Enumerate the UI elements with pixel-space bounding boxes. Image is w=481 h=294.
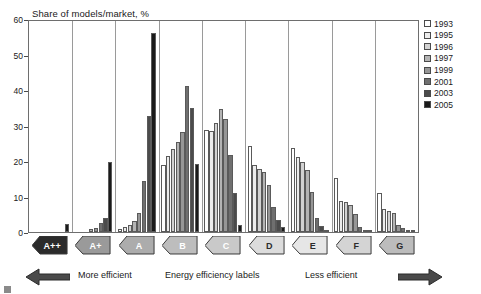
- energy-label-b[interactable]: B: [162, 236, 198, 255]
- legend-swatch: [424, 43, 431, 50]
- bar: [180, 132, 184, 232]
- bar: [209, 131, 213, 232]
- legend-swatch: [424, 55, 431, 62]
- bar: [89, 229, 93, 232]
- bar: [108, 162, 112, 232]
- y-axis-tick-label: 10: [14, 193, 23, 203]
- bar-group: [29, 21, 72, 232]
- bar: [252, 165, 256, 232]
- corner-marker: [4, 286, 11, 293]
- bar: [310, 192, 314, 232]
- bar: [339, 201, 343, 232]
- bar: [166, 156, 170, 232]
- energy-label-g[interactable]: G: [379, 236, 415, 255]
- energy-label-c[interactable]: C: [205, 236, 241, 255]
- bar: [228, 155, 232, 232]
- legend-item[interactable]: 1997: [424, 53, 478, 65]
- bar: [353, 214, 357, 232]
- bar: [132, 221, 136, 232]
- bar: [411, 230, 415, 232]
- bar: [267, 185, 271, 232]
- bar: [324, 230, 328, 232]
- y-axis-tick-label: 50: [14, 51, 23, 61]
- bar: [128, 225, 132, 232]
- legend-label: 1999: [434, 66, 453, 75]
- energy-label-text: B: [179, 241, 186, 251]
- bar: [248, 146, 252, 232]
- bar: [315, 218, 319, 232]
- y-axis-tick-label: 20: [14, 157, 23, 167]
- legend-item[interactable]: 2001: [424, 76, 478, 88]
- bar-group: [202, 21, 245, 232]
- legend-item[interactable]: 1995: [424, 30, 478, 42]
- bar-group: [115, 21, 158, 232]
- bar: [367, 230, 371, 232]
- chart-footer: More efficient Energy efficiency labels …: [0, 262, 481, 292]
- y-axis-tick-label: 30: [14, 122, 23, 132]
- legend-swatch: [424, 101, 431, 108]
- legend: 19931995199619971999200120032005: [424, 18, 478, 111]
- bar: [406, 230, 410, 232]
- energy-label-strip: A++A+ABCDEFG: [28, 236, 419, 258]
- legend-item[interactable]: 2005: [424, 99, 478, 111]
- legend-item[interactable]: 1999: [424, 64, 478, 76]
- bar-group: [332, 21, 375, 232]
- energy-label-aplus[interactable]: A+: [75, 236, 111, 255]
- chart-title: Share of models/market, %: [32, 8, 149, 19]
- legend-label: 2005: [434, 101, 453, 110]
- legend-item[interactable]: 1993: [424, 18, 478, 30]
- bar: [257, 169, 261, 232]
- bar: [271, 207, 275, 232]
- bar-group: [288, 21, 331, 232]
- bar: [151, 33, 155, 232]
- legend-swatch: [424, 67, 431, 74]
- legend-label: 2001: [434, 78, 453, 87]
- legend-item[interactable]: 1996: [424, 41, 478, 53]
- arrow-left-icon: [26, 268, 70, 286]
- y-axis-tick-label: 60: [14, 15, 23, 25]
- bar: [137, 213, 141, 232]
- energy-label-e[interactable]: E: [292, 236, 328, 255]
- energy-label-aplusplus[interactable]: A++: [32, 236, 68, 255]
- energy-label-a[interactable]: A: [119, 236, 155, 255]
- axis-center-label: Energy efficiency labels: [165, 270, 259, 280]
- bar: [204, 130, 208, 232]
- energy-label-text: A++: [43, 241, 61, 251]
- energy-label-text: D: [266, 241, 273, 251]
- bar: [281, 227, 285, 232]
- bar: [195, 164, 199, 232]
- bar: [392, 213, 396, 232]
- more-efficient-label: More efficient: [78, 270, 132, 280]
- legend-label: 1996: [434, 43, 453, 52]
- energy-label-text: G: [396, 241, 403, 251]
- energy-label-text: E: [310, 241, 316, 251]
- energy-label-text: A+: [90, 241, 102, 251]
- bar: [296, 157, 300, 232]
- legend-label: 1995: [434, 31, 453, 40]
- energy-label-d[interactable]: D: [249, 236, 285, 255]
- bar-group: [159, 21, 202, 232]
- bar: [291, 148, 295, 232]
- bar: [214, 123, 218, 232]
- arrow-right-icon: [398, 268, 442, 286]
- energy-label-f[interactable]: F: [336, 236, 372, 255]
- energy-label-text: A: [136, 241, 143, 251]
- bar: [94, 228, 98, 232]
- chart-root: Share of models/market, % 0102030405060 …: [0, 0, 481, 294]
- bar: [363, 230, 367, 232]
- legend-item[interactable]: 2003: [424, 88, 478, 100]
- y-axis: 0102030405060: [0, 20, 28, 233]
- bar: [387, 211, 391, 232]
- bar: [344, 202, 348, 232]
- bar: [161, 165, 165, 232]
- bar: [358, 227, 362, 232]
- bar: [396, 225, 400, 232]
- bar: [300, 162, 304, 232]
- bar: [348, 205, 352, 232]
- bar: [401, 228, 405, 232]
- bar: [219, 109, 223, 232]
- bar: [142, 181, 146, 232]
- legend-label: 1997: [434, 54, 453, 63]
- bar: [223, 119, 227, 232]
- less-efficient-label: Less efficient: [305, 270, 357, 280]
